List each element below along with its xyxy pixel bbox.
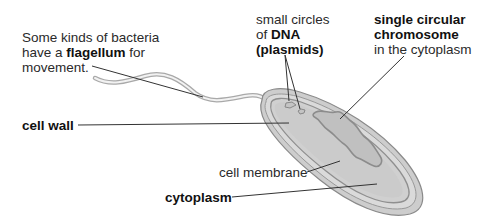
plasmid-2 [298,109,305,114]
chromosome-label: single circular chromosome in the cytopl… [374,12,472,57]
cytoplasm-label: cytoplasm [165,190,232,205]
plasmids-label: small circles of DNA (plasmids) [256,12,330,57]
cell-wall-label: cell wall [22,118,74,133]
cell-membrane-label: cell membrane [219,165,308,180]
flagellum [95,74,266,100]
flagellum-label: Some kinds of bacteria have a flagellum … [22,30,159,75]
